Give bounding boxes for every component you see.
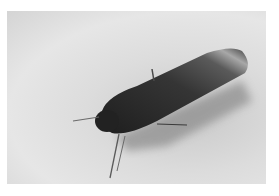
moth-illustration bbox=[7, 11, 266, 184]
leg-front bbox=[110, 134, 119, 178]
moth-head bbox=[95, 110, 119, 132]
moth-photo bbox=[7, 11, 266, 184]
